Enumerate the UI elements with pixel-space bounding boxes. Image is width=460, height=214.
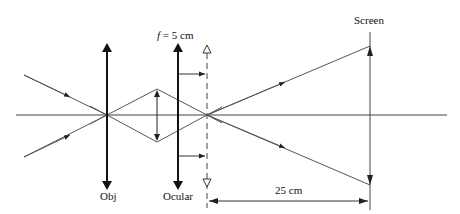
- screen: [367, 32, 373, 210]
- arrow-down-icon: [173, 181, 183, 190]
- incoming-rays: [24, 75, 107, 157]
- distance-label: 25 cm: [275, 184, 303, 196]
- arrow-up-icon: [102, 43, 112, 52]
- screen-label: Screen: [354, 14, 384, 26]
- ocular-label: Ocular: [163, 190, 193, 202]
- distance-marker: [209, 198, 368, 204]
- microscope-diagram: Screen f = 5 cm Obj Ocular 25 cm: [0, 0, 460, 214]
- open-triangle-up-icon: [203, 45, 211, 53]
- arrow-down-icon: [102, 181, 112, 190]
- focal-plane: [203, 45, 211, 208]
- objective-label: Obj: [100, 190, 117, 202]
- focal-length-label: f = 5 cm: [157, 29, 194, 41]
- open-triangle-down-icon: [203, 179, 211, 187]
- ocular-lens: [173, 43, 183, 190]
- arrow-up-icon: [173, 43, 183, 52]
